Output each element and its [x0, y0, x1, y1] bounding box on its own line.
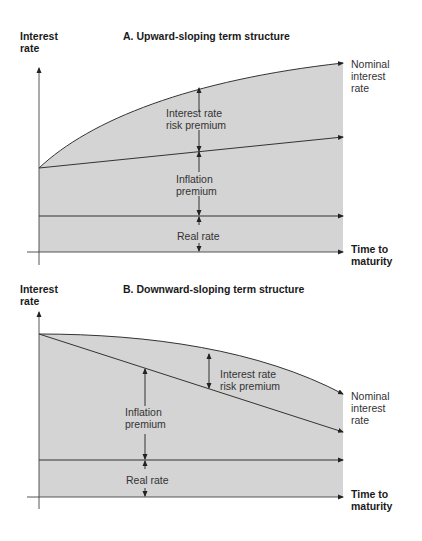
- panel-b-xlabel-2: maturity: [351, 500, 393, 512]
- panel-a-upward: Interest rate A. Upward-sloping term str…: [20, 30, 393, 267]
- panel-a-nominal-1: Nominal: [351, 58, 390, 70]
- panel-b-ylabel-2: rate: [20, 295, 39, 307]
- panel-b-inflation-2: premium: [125, 418, 166, 430]
- panel-a-real-rate: Real rate: [177, 230, 220, 242]
- panel-b-nominal-2: interest: [351, 402, 386, 414]
- panel-a-nominal-3: rate: [351, 82, 369, 94]
- panel-a-risk-1: Interest rate: [166, 107, 222, 119]
- panel-a-inflation-1: Inflation: [176, 173, 213, 185]
- panel-b-risk-2: risk premium: [220, 380, 280, 392]
- panel-b-shaded-area: [39, 334, 343, 497]
- panel-a-risk-2: risk premium: [166, 119, 226, 131]
- panel-b-risk-1: Interest rate: [220, 368, 276, 380]
- panel-a-ylabel-1: Interest: [20, 30, 58, 42]
- panel-a-ylabel-2: rate: [20, 42, 39, 54]
- panel-a-xlabel-2: maturity: [351, 255, 393, 267]
- panel-b-downward: Interest rate B. Downward-sloping term s…: [20, 283, 393, 512]
- panel-a-nominal-2: interest: [351, 70, 386, 82]
- panel-b-ylabel-1: Interest: [20, 283, 58, 295]
- panel-a-xlabel-1: Time to: [351, 243, 388, 255]
- panel-b-xlabel-1: Time to: [351, 488, 388, 500]
- panel-b-inflation-1: Inflation: [125, 406, 162, 418]
- panel-b-nominal-1: Nominal: [351, 390, 390, 402]
- panel-a-title: A. Upward-sloping term structure: [123, 30, 290, 42]
- panel-a-inflation-2: premium: [176, 185, 217, 197]
- panel-b-real-rate: Real rate: [126, 474, 169, 486]
- term-structure-diagram: Interest rate A. Upward-sloping term str…: [0, 0, 422, 541]
- panel-b-nominal-3: rate: [351, 414, 369, 426]
- panel-b-title: B. Downward-sloping term structure: [123, 283, 305, 295]
